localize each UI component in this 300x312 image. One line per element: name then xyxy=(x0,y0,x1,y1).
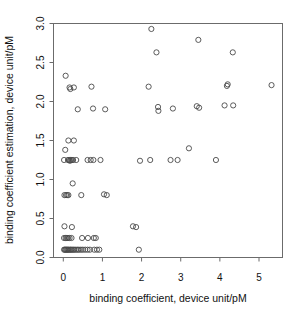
y-tick-label: 2.0 xyxy=(35,94,46,108)
y-tick-label: 0.5 xyxy=(35,211,46,225)
plot-canvas: 0.00.51.01.52.02.53.0 012345 binding coe… xyxy=(0,0,300,312)
x-tick-label: 5 xyxy=(256,272,262,283)
x-tick-label: 0 xyxy=(61,272,67,283)
x-axis-title: binding coefficient, device unit/pM xyxy=(89,292,246,304)
y-tick-label: 1.0 xyxy=(35,172,46,186)
y-axis-title: binding coefficient estimation, device u… xyxy=(3,36,15,244)
x-tick-label: 4 xyxy=(217,272,223,283)
x-tick-label: 2 xyxy=(139,272,145,283)
y-tick-label: 1.5 xyxy=(35,133,46,147)
y-tick-label: 0.0 xyxy=(35,250,46,264)
scatter-plot-figure: 0.00.51.01.52.02.53.0 012345 binding coe… xyxy=(0,0,300,312)
y-tick-label: 3.0 xyxy=(35,16,46,30)
y-tick-label: 2.5 xyxy=(35,55,46,69)
x-tick-label: 3 xyxy=(178,272,184,283)
x-tick-label: 1 xyxy=(100,272,106,283)
